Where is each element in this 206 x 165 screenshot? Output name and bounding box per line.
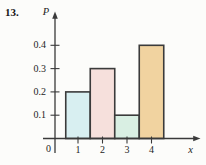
y-axis-arrow-icon	[52, 12, 58, 19]
y-tick-label: 0.3	[34, 63, 47, 74]
bars-layer	[66, 45, 164, 138]
x-axis-arrow-icon	[193, 136, 200, 142]
figure-panel: 13. 0.1 0.2 0.3 0.4 1 2 3 4 P x 0	[0, 0, 206, 165]
x-tick-label: 2	[100, 144, 105, 155]
bar-x1	[66, 92, 91, 139]
x-axis-label: x	[187, 144, 193, 155]
probability-histogram: 0.1 0.2 0.3 0.4 1 2 3 4 P x 0	[0, 0, 206, 165]
bar-x4	[139, 45, 164, 138]
y-tick-label: 0.4	[34, 39, 47, 50]
bar-x2	[90, 69, 115, 139]
x-tick-label: 1	[76, 144, 81, 155]
bar-x3	[115, 115, 140, 138]
y-axis-label: P	[42, 6, 50, 17]
x-tick-label: 3	[125, 144, 130, 155]
y-tick-label: 0.1	[34, 109, 47, 120]
x-tick-label: 4	[149, 144, 154, 155]
origin-label: 0	[46, 143, 51, 154]
y-tick-label: 0.2	[34, 86, 47, 97]
